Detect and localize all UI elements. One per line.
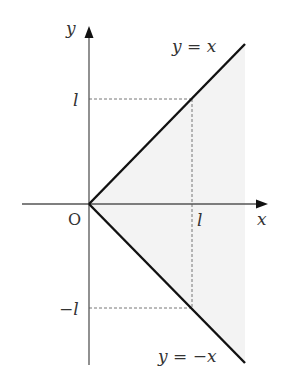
upper-line-label: y = x: [171, 36, 217, 56]
y-axis-label: y: [65, 18, 76, 38]
x-axis-arrow-icon: [256, 200, 268, 209]
y-axis-arrow-icon: [85, 26, 94, 38]
y-tick-neg-l-label: −l: [59, 299, 79, 319]
y-tick-l-label: l: [73, 90, 78, 110]
origin-label: O: [68, 210, 81, 229]
lower-line-label: y = −x: [157, 346, 217, 366]
region-diagram: y x O l l −l y = x y = −x: [0, 0, 286, 390]
x-axis-label: x: [257, 209, 267, 229]
x-tick-l-label: l: [197, 210, 202, 230]
